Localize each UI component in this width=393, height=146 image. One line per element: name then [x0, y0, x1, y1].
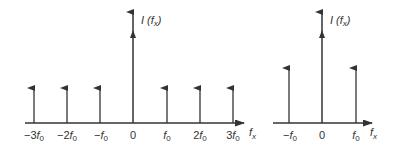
right-plot: I (fx) −f0 0 f0 fx	[273, 12, 378, 143]
tick-zero: 0	[130, 129, 136, 141]
dc-impulse-arrowhead	[319, 30, 325, 38]
tick-3f0: 3f0	[226, 129, 240, 143]
tick-minus-f0: −f0	[283, 129, 298, 143]
tick-2f0: 2f0	[193, 129, 207, 143]
tick-f0: f0	[163, 129, 171, 143]
dc-impulse-arrowhead	[130, 30, 136, 38]
tick-f0: f0	[352, 129, 360, 143]
tick-minus-2f0: −2f0	[57, 129, 78, 143]
x-axis-label: fx	[370, 126, 378, 141]
x-axis-label: fx	[249, 126, 257, 141]
y-axis-label: I (fx)	[330, 14, 351, 28]
fourier-impulse-diagram: I (fx) −3f0 −2f0 −f0 0 f0 2f0 3f0 fx I (…	[0, 0, 393, 146]
left-plot: I (fx) −3f0 −2f0 −f0 0 f0 2f0 3f0 fx	[24, 12, 257, 143]
tick-zero: 0	[319, 129, 325, 141]
y-axis-label: I (fx)	[141, 14, 162, 28]
tick-minus-3f0: −3f0	[24, 129, 45, 143]
tick-minus-f0: −f0	[94, 129, 109, 143]
